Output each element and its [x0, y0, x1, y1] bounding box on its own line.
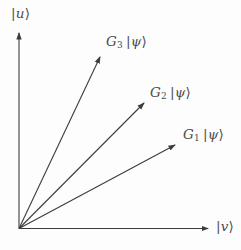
quantum-state-vector-diagram: |u⟩ G3|ψ⟩ G2|ψ⟩ G1|ψ⟩ |v⟩ — [0, 0, 241, 250]
ket-group: |ψ⟩ — [126, 33, 147, 49]
operator-subscript: 1 — [194, 133, 200, 143]
ket-bracket: ⟩ — [229, 218, 234, 234]
ket-group: |ψ⟩ — [203, 126, 224, 142]
u-axis-label: |u⟩ — [11, 5, 30, 21]
operator-symbol: G — [106, 33, 117, 49]
ket-bracket: ⟩ — [185, 84, 190, 100]
ket-bracket: ⟩ — [25, 5, 30, 21]
vector-line-g2 — [19, 103, 144, 229]
ket-bracket: ⟩ — [141, 33, 146, 49]
operator-subscript: 3 — [117, 40, 123, 50]
ket-variable: ψ — [175, 84, 186, 100]
vector-line-g1 — [19, 145, 175, 229]
vector-label-g1: G1|ψ⟩ — [183, 126, 224, 143]
ket-variable: ψ — [208, 126, 219, 142]
v-axis-label: |v⟩ — [216, 218, 234, 234]
ket-group: |ψ⟩ — [170, 84, 191, 100]
ket-variable: u — [16, 5, 25, 21]
vector-label-g2: G2|ψ⟩ — [150, 84, 191, 101]
operator-subscript: 2 — [161, 91, 167, 101]
ket-bracket: ⟩ — [218, 126, 223, 142]
vector-line-g3 — [19, 57, 100, 229]
operator-symbol: G — [183, 126, 194, 142]
ket-variable: v — [221, 218, 229, 234]
vector-label-g3: G3|ψ⟩ — [106, 33, 147, 50]
operator-symbol: G — [150, 84, 161, 100]
ket-variable: ψ — [131, 33, 142, 49]
